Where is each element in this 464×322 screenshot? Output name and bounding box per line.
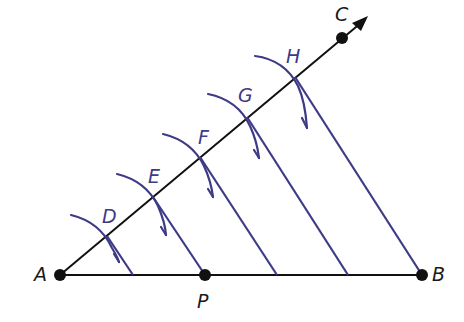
- point-b: [416, 269, 428, 281]
- label-f: F: [198, 128, 209, 147]
- parallel-line-h: [295, 77, 422, 275]
- label-h: H: [286, 47, 300, 66]
- label-a: A: [34, 265, 47, 284]
- point-p: [199, 269, 211, 281]
- point-c: [336, 32, 348, 44]
- label-e: E: [148, 167, 160, 186]
- label-g: G: [238, 86, 253, 105]
- parallel-line-d: [107, 236, 133, 275]
- compass-arcs: [71, 56, 307, 262]
- point-a: [54, 269, 66, 281]
- label-d: D: [102, 207, 117, 226]
- parallel-line-f: [200, 157, 277, 275]
- label-p: P: [197, 292, 208, 311]
- label-b: B: [432, 265, 445, 284]
- label-c: C: [335, 5, 348, 24]
- segment-division-diagram: [0, 0, 464, 322]
- parallel-line-e: [153, 197, 205, 275]
